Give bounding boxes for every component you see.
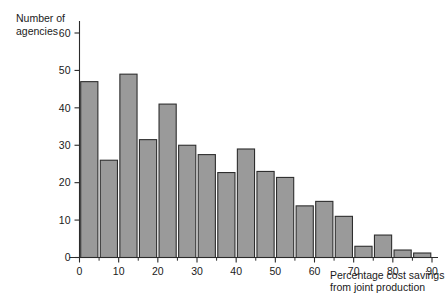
y-axis-label-line2: agencies xyxy=(16,25,58,37)
x-axis-tick-label: 60 xyxy=(309,265,321,277)
x-axis-tick-label: 50 xyxy=(269,265,281,277)
histogram-bar xyxy=(139,140,156,258)
y-axis-tick-label: 50 xyxy=(59,64,71,76)
y-axis-tick-label: 10 xyxy=(59,214,71,226)
histogram-bar xyxy=(277,177,294,257)
histogram-bar xyxy=(335,216,352,257)
x-axis-label-line2: from joint production xyxy=(330,281,425,293)
histogram-bar xyxy=(394,250,411,257)
bars-layer xyxy=(81,74,431,257)
histogram-bar xyxy=(218,173,235,258)
x-axis-tick-label: 10 xyxy=(113,265,125,277)
histogram-bar xyxy=(414,253,431,257)
x-axis-tick-label: 0 xyxy=(77,265,83,277)
histogram-bar xyxy=(81,82,98,258)
histogram-bar xyxy=(374,235,391,257)
y-axis-tick-label: 60 xyxy=(59,27,71,39)
histogram-figure: 01020304050600102030405060708090 Number … xyxy=(0,0,447,302)
histogram-bar xyxy=(257,171,274,257)
y-axis-tick-label: 30 xyxy=(59,139,71,151)
y-axis-tick-label: 40 xyxy=(59,102,71,114)
y-axis-label-line1: Number of xyxy=(16,12,65,24)
histogram-bar xyxy=(198,155,215,258)
histogram-bar xyxy=(316,201,333,257)
y-axis-tick-label: 20 xyxy=(59,176,71,188)
histogram-bar xyxy=(355,246,372,257)
y-axis-tick-label: 0 xyxy=(65,251,71,263)
x-axis-label-line1: Percentage cost savings xyxy=(330,269,444,281)
histogram-bar xyxy=(237,149,254,258)
histogram-bar xyxy=(179,145,196,257)
histogram-chart: 01020304050600102030405060708090 Number … xyxy=(0,0,447,302)
x-axis-tick-label: 20 xyxy=(152,265,164,277)
x-axis-tick-label: 30 xyxy=(191,265,203,277)
histogram-bar xyxy=(296,206,313,258)
histogram-bar xyxy=(120,74,137,257)
histogram-bar xyxy=(159,104,176,257)
histogram-bar xyxy=(100,160,117,257)
x-axis-tick-label: 40 xyxy=(230,265,242,277)
